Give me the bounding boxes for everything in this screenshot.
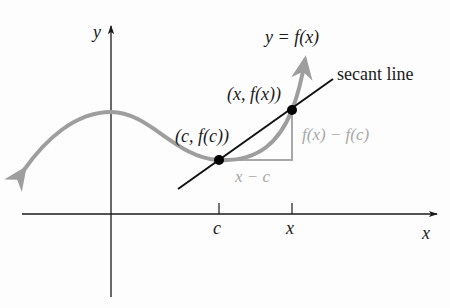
tick-label-x: x: [285, 218, 294, 238]
point-c: [214, 155, 224, 165]
secant-line-diagram: y x c x y = f(x) secant line (c, f(c)) (…: [0, 0, 450, 308]
run-label: x − c: [234, 167, 271, 186]
point-x: [287, 105, 297, 115]
y-axis-label: y: [91, 22, 101, 42]
rise-label: f(x) − f(c): [302, 125, 369, 144]
point-label-c: (c, f(c)): [175, 126, 229, 147]
curve-label: y = f(x): [263, 27, 319, 48]
diagram-svg: y x c x y = f(x) secant line (c, f(c)) (…: [0, 0, 450, 308]
tick-label-c: c: [213, 218, 221, 238]
x-axis-label: x: [421, 223, 430, 243]
secant-label: secant line: [337, 64, 413, 84]
point-label-x: (x, f(x)): [227, 84, 281, 105]
function-curve: [24, 60, 305, 170]
